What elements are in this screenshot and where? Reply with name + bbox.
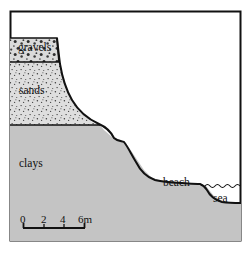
cliff-cross-section-figure: gravels sands clays beach sea 0 2 4 6m bbox=[0, 0, 251, 253]
cliff-diagram-svg bbox=[0, 0, 251, 253]
scale-tick-6: 6m bbox=[78, 213, 92, 225]
label-sands: sands bbox=[19, 85, 45, 97]
scale-tick-0: 0 bbox=[20, 213, 26, 225]
scale-tick-4: 4 bbox=[60, 213, 66, 225]
label-sea: sea bbox=[213, 193, 228, 205]
label-gravels: gravels bbox=[18, 42, 51, 54]
label-clays: clays bbox=[19, 158, 43, 170]
label-beach: beach bbox=[163, 177, 190, 189]
scale-tick-2: 2 bbox=[41, 213, 47, 225]
